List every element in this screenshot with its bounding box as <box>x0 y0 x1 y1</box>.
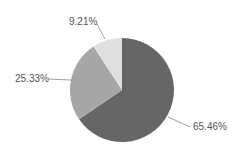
leader-line <box>97 24 105 39</box>
leader-line <box>168 117 190 127</box>
leader-line <box>48 79 71 80</box>
slice-label: 65.46% <box>193 121 227 132</box>
pie-chart: 65.46%25.33%9.21% <box>0 0 239 158</box>
slice-label: 9.21% <box>69 16 97 27</box>
pie-slices <box>70 38 174 142</box>
slice-label: 25.33% <box>15 73 49 84</box>
